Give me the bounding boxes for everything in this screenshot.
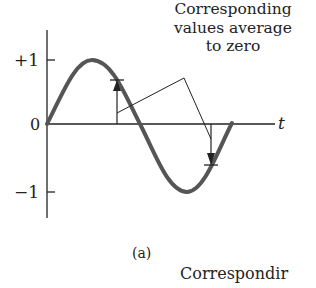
tick-label-minus-one: −1	[14, 182, 39, 202]
tick-label-zero: 0	[30, 115, 40, 134]
figure-caption: (a)	[132, 245, 151, 261]
annotation-text: Corresponding values average to zero	[148, 0, 316, 56]
annotation-line-3: to zero	[148, 37, 316, 56]
annotation-line-2: values average	[148, 19, 316, 38]
cutoff-text: Correspondir	[180, 264, 288, 283]
sine-curve	[47, 60, 232, 192]
tick-label-plus-one: +1	[14, 50, 39, 70]
t-axis-label: t	[278, 113, 285, 133]
annotation-line-1: Corresponding	[148, 0, 316, 19]
